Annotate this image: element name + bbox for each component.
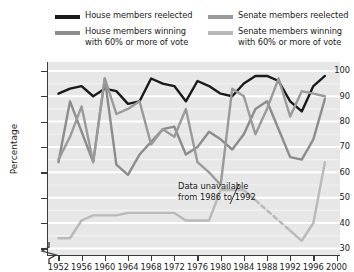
x-tick-label-2000: 2000 [320, 262, 354, 272]
legend-item-senate-60-percent: Senate members winning with 60% or more … [208, 26, 342, 47]
chart-legend: House members reelected House members wi… [0, 6, 350, 54]
legend-swatch-house-60-percent [55, 31, 80, 35]
legend-swatch-senate-60-percent [208, 31, 233, 35]
annotation-leader-line [0, 56, 350, 262]
legend-item-senate-reelected: Senate members reelected [208, 10, 348, 21]
legend-label-senate-reelected: Senate members reelected [238, 10, 348, 21]
legend-swatch-senate-reelected [208, 15, 233, 19]
legend-label-senate-60-percent: Senate members winning with 60% or more … [238, 26, 342, 47]
legend-label-house-60-percent: House members winning with 60% or more o… [85, 26, 188, 47]
line-chart: Percentage 30405060708090100 19521956196… [0, 56, 350, 262]
legend-label-house-reelected: House members reelected [85, 10, 192, 21]
annotation-data-unavailable: Data unavailable from 1986 to 1992 [178, 181, 256, 202]
legend-swatch-house-reelected [55, 15, 80, 19]
legend-item-house-reelected: House members reelected [55, 10, 192, 21]
legend-item-house-60-percent: House members winning with 60% or more o… [55, 26, 188, 47]
